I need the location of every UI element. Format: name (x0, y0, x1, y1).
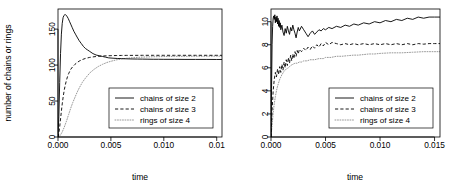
x-tick-label: 0.010 (153, 140, 174, 150)
legend-left: chains of size 2 chains of size 3 rings … (109, 88, 213, 128)
y-axis-title-left: number of chains or rings (3, 25, 13, 122)
legend-label-rings-of-size-4-right: rings of size 4 (360, 116, 410, 125)
plot-area-left: 050100150 0.0000.0050.0100.01 number of … (0, 0, 229, 191)
legend-label-chains-of-size-2-left: chains of size 2 (140, 94, 196, 103)
y-tick-label: 8 (260, 42, 270, 47)
y-tick-label: 2 (260, 111, 270, 116)
legend-label-rings-of-size-4-left: rings of size 4 (140, 116, 190, 125)
x-axis-title-left: time (132, 172, 148, 182)
legend-label-chains-of-size-3-left: chains of size 3 (140, 105, 196, 114)
y-tick-label: 150 (47, 22, 57, 36)
x-tick-label: 0.010 (370, 140, 391, 150)
y-tick-label: 6 (260, 65, 270, 70)
legend-label-chains-of-size-3-right: chains of size 3 (360, 105, 416, 114)
x-tick-label: 0.005 (101, 140, 122, 150)
x-axis-right: 0.0000.0050.0100.015 (261, 137, 446, 150)
y-tick-label: 0 (260, 134, 270, 139)
y-tick-label: 100 (47, 58, 57, 72)
legend-right: chains of size 2 chains of size 3 rings … (329, 88, 433, 128)
x-tick-label: 0.01 (209, 140, 226, 150)
x-tick-label: 0.000 (48, 140, 69, 150)
x-axis-left: 0.0000.0050.0100.01 (48, 137, 226, 150)
chart-panel-right: 0246810 0.0000.0050.0100.015 time chains… (230, 0, 459, 191)
y-tick-label: 50 (47, 96, 57, 106)
x-tick-label: 0.015 (424, 140, 445, 150)
x-tick-label: 0.005 (315, 140, 336, 150)
x-axis-title-right: time (347, 172, 363, 182)
plot-area-right: 0246810 0.0000.0050.0100.015 time chains… (230, 0, 459, 191)
y-tick-label: 0 (47, 134, 57, 139)
x-tick-label: 0.000 (261, 140, 282, 150)
y-axis-left: 050100150 (47, 22, 58, 139)
chart-panel-left: 050100150 0.0000.0050.0100.01 number of … (0, 0, 229, 191)
y-tick-label: 10 (260, 17, 270, 27)
y-axis-right: 0246810 (260, 17, 271, 140)
legend-label-chains-of-size-2-right: chains of size 2 (360, 94, 416, 103)
figure-two-panel-line-chart: 050100150 0.0000.0050.0100.01 number of … (0, 0, 459, 191)
y-tick-label: 4 (260, 88, 270, 93)
